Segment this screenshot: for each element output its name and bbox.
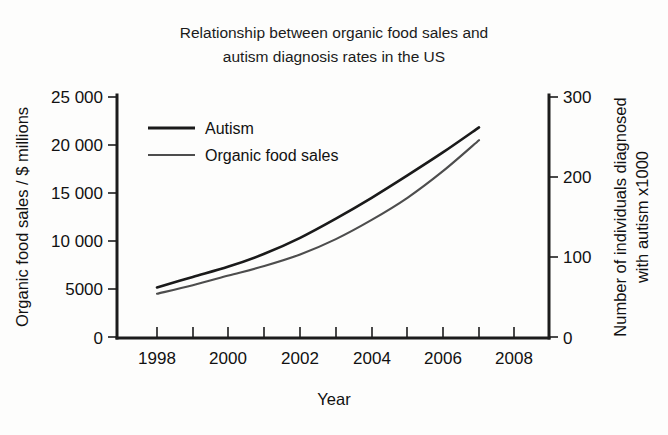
x-tick-label-2002: 2002 [281,349,319,368]
x-tick-label-2008: 2008 [495,349,533,368]
right-axis-title-line-1: Number of individuals diagnosed [611,97,629,336]
legend-label-autism: Autism [205,120,254,137]
chart-figure: Relationship between organic food sales … [0,0,668,435]
left-tick-label-25000: 25 000 [51,88,103,107]
right-y-axis: 300 200 100 0 Number of individuals diag… [549,88,651,348]
chart-legend: Autism Organic food sales [148,120,338,164]
chart-title-line-2: autism diagnosis rates in the US [223,48,445,65]
chart-title-line-1: Relationship between organic food sales … [180,24,489,41]
left-tick-label-10000: 10 000 [51,232,103,251]
line-chart-svg: Relationship between organic food sales … [0,0,668,435]
left-tick-label-0: 0 [94,329,103,348]
right-tick-label-300: 300 [563,88,591,107]
left-axis-title: Organic food sales / $ millions [13,107,31,327]
right-tick-label-0: 0 [563,329,572,348]
legend-label-organic: Organic food sales [205,147,338,164]
x-tick-label-2000: 2000 [209,349,247,368]
x-tick-label-2004: 2004 [353,349,391,368]
x-tick-label-1998: 1998 [138,349,176,368]
right-tick-label-100: 100 [563,248,591,267]
left-tick-label-15000: 15 000 [51,184,103,203]
x-axis: 1998 2000 2002 2004 2006 2008 Year [117,327,549,408]
x-axis-title: Year [317,390,351,408]
left-tick-label-5000: 5000 [65,280,103,299]
right-tick-label-200: 200 [563,168,591,187]
left-tick-label-20000: 20 000 [51,136,103,155]
x-tick-label-2006: 2006 [424,349,462,368]
right-axis-title-line-2: with autism x1000 [633,151,651,284]
left-y-axis: 25 000 20 000 15 000 10 000 5000 0 Organ… [13,88,117,348]
